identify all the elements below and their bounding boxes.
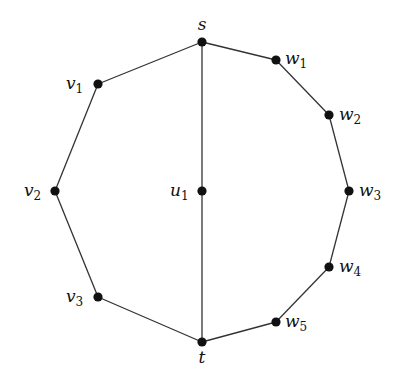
node-t — [197, 337, 206, 346]
graph-svg: sw1w2w3w4w5tv3v2v1u1 — [0, 0, 403, 380]
edge-w5-t — [202, 322, 276, 342]
node-label-s: s — [198, 14, 207, 34]
node-v3 — [93, 292, 102, 301]
node-w1 — [271, 55, 280, 64]
node-label-w1: w1 — [285, 48, 307, 71]
node-label-t: t — [199, 347, 206, 367]
node-label-v3: v3 — [66, 286, 83, 309]
edge-w2-w3 — [329, 115, 349, 191]
node-v1 — [93, 79, 102, 88]
edge-v3-v2 — [55, 191, 98, 297]
node-w4 — [324, 262, 333, 271]
node-label-w5: w5 — [285, 311, 307, 334]
node-label-w3: w3 — [359, 180, 381, 203]
node-label-u1: u1 — [170, 180, 189, 203]
node-v2 — [50, 186, 59, 195]
node-label-w2: w2 — [339, 104, 361, 127]
graph-diagram: sw1w2w3w4w5tv3v2v1u1 — [0, 0, 403, 380]
edge-v2-v1 — [55, 84, 98, 191]
edge-s-w1 — [202, 42, 276, 60]
node-w3 — [344, 186, 353, 195]
node-w2 — [324, 110, 333, 119]
node-label-v1: v1 — [66, 73, 83, 96]
node-u1 — [197, 186, 206, 195]
edge-v1-s — [98, 42, 202, 84]
edge-t-v3 — [98, 297, 202, 342]
node-w5 — [271, 317, 280, 326]
node-label-w4: w4 — [339, 256, 362, 279]
node-s — [197, 37, 206, 46]
node-label-v2: v2 — [24, 180, 41, 203]
edge-w4-w5 — [276, 267, 329, 322]
